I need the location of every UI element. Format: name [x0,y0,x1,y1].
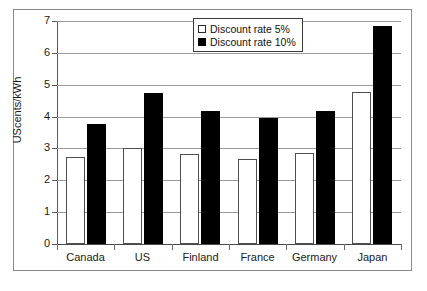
legend-item: Discount rate 10% [198,35,296,48]
bar-canada-series-2 [87,124,106,244]
legend-swatch-light-icon [198,25,206,33]
bar-japan-series-2 [373,26,392,244]
y-axis-tick-label: 5 [10,79,50,90]
y-axis-tick-label: 0 [10,238,50,249]
y-axis-tick-label: 3 [10,142,50,153]
x-axis-label-finland: Finland [172,251,229,263]
gridline [57,85,401,86]
legend-item-label: Discount rate 10% [210,36,296,48]
x-axis-label-canada: Canada [57,251,114,263]
y-axis-tick-label: 6 [10,47,50,58]
x-axis-separator [229,244,230,250]
y-axis-tick-label: 4 [10,111,50,122]
bar-us-series-2 [144,93,163,244]
x-axis-separator [57,244,58,250]
x-axis-separator [401,244,402,250]
legend-swatch-dark-icon [198,38,206,46]
y-axis-tick-mark [52,21,57,22]
x-axis-separator [114,244,115,250]
legend-item: Discount rate 5% [198,22,296,35]
gridline [57,180,401,181]
gridline [57,148,401,149]
plot-area [57,21,401,244]
gridline [57,212,401,213]
bar-canada-series-1 [66,157,85,244]
y-axis-tick-mark [52,148,57,149]
bar-us-series-1 [123,148,142,244]
x-axis-separator [344,244,345,250]
chart-legend: Discount rate 5% Discount rate 10% [193,18,303,52]
bar-germany-series-2 [316,111,335,244]
y-axis-tick-mark [52,53,57,54]
y-axis-tick-mark [52,180,57,181]
bar-germany-series-1 [295,153,314,244]
legend-item-label: Discount rate 5% [210,23,290,35]
bar-finland-series-1 [180,154,199,244]
gridline [57,53,401,54]
y-axis-tick-label: 2 [10,174,50,185]
x-axis-label-germany: Germany [286,251,343,263]
x-axis-label-japan: Japan [344,251,401,263]
y-axis-tick-mark [52,244,57,245]
bar-finland-series-2 [201,111,220,244]
y-axis-tick-mark [52,85,57,86]
bar-japan-series-1 [352,92,371,244]
y-axis-tick-mark [52,117,57,118]
gridline [57,117,401,118]
x-axis-label-france: France [229,251,286,263]
y-axis-tick-mark [52,212,57,213]
y-axis-tick-labels: 01234567 [4,0,50,291]
y-axis-tick-label: 1 [10,206,50,217]
x-axis-separator [286,244,287,250]
chart-figure: UScents/kWh 01234567 CanadaUSFinlandFran… [0,0,427,291]
y-axis-tick-label: 7 [10,15,50,26]
bar-france-series-1 [238,159,257,244]
bar-france-series-2 [259,118,278,244]
x-axis-label-us: US [114,251,171,263]
x-axis-separator [172,244,173,250]
